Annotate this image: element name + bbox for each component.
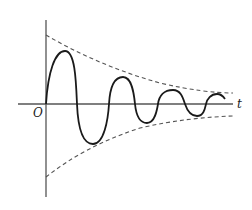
t-axis-label: t [237,97,242,111]
damped-oscillation-diagram: O t [0,0,252,210]
origin-label: O [33,106,43,120]
lower-envelope [46,116,233,177]
